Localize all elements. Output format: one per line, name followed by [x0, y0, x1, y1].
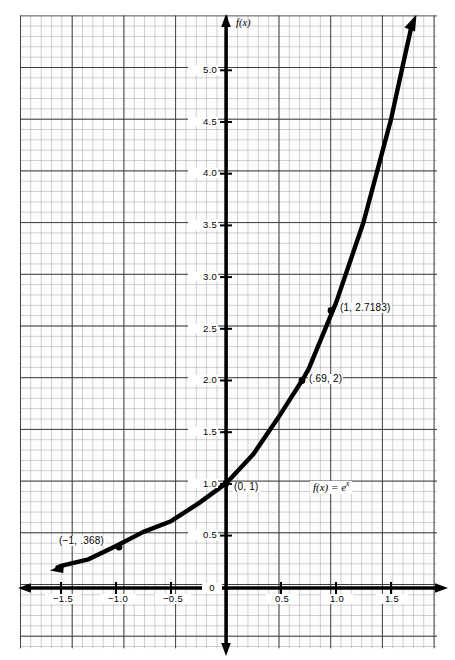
- point-marker-1-e: [328, 307, 335, 314]
- x-tick-label-0: 0: [202, 583, 222, 593]
- y-tick-label-4-5: 4.5: [188, 117, 218, 127]
- x-tick-label-1-0: 1.0: [321, 594, 353, 604]
- x-tick-label-1-5: 1.5: [376, 594, 408, 604]
- point-label-1-27183: (1, 2.7183): [339, 303, 392, 313]
- y-tick-label-2-5: 2.5: [188, 324, 218, 334]
- y-tick-label-2-0: 2.0: [188, 375, 218, 385]
- point-marker-069-2: [299, 377, 306, 384]
- x-tick-label-neg-1-0: −1.0: [100, 594, 136, 604]
- graph-canvas: [0, 0, 455, 660]
- graph-paper-background: [20, 15, 437, 648]
- point-label-069-2: (.69, 2): [308, 374, 343, 384]
- point-marker-0-1: [223, 480, 230, 487]
- y-tick-label-1-0: 1.0: [188, 479, 218, 489]
- y-tick-label-4-0: 4.0: [188, 168, 218, 178]
- point-label-neg1-368: (−1, .368): [58, 536, 105, 546]
- y-tick-label-3-5: 3.5: [188, 220, 218, 230]
- y-axis-title: f(x): [235, 18, 252, 29]
- function-formula-label: f(x) = ex: [310, 481, 352, 494]
- point-label-0-1: (0, 1): [233, 482, 260, 492]
- y-tick-label-1-5: 1.5: [188, 427, 218, 437]
- y-tick-label-3-0: 3.0: [188, 272, 218, 282]
- x-tick-label-neg-1-5: −1.5: [45, 594, 81, 604]
- y-axis-arrow-down: [221, 643, 231, 656]
- point-marker-neg1: [116, 544, 123, 551]
- function-formula-exponent: x: [346, 479, 349, 488]
- x-tick-label-neg-0-5: −0.5: [155, 594, 191, 604]
- function-formula-base: f(x) = e: [313, 481, 346, 493]
- x-tick-label-0-5: 0.5: [266, 594, 298, 604]
- y-tick-label-5-0: 5.0: [188, 65, 218, 75]
- x-axis-arrow-right: [435, 583, 448, 593]
- y-tick-label-0-5: 0.5: [188, 530, 218, 540]
- exponential-function-graph-figure: f(x) 5.0 4.5 4.0 3.5 3.0 2.5 2.0 1.5 1.0…: [0, 0, 455, 660]
